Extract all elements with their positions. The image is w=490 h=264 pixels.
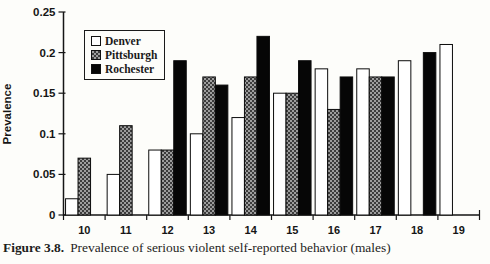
bar-denver-age-12	[149, 150, 162, 215]
bar-denver-age-14	[232, 118, 245, 215]
bar-pittsburgh-age-17	[369, 77, 382, 215]
legend-label-denver: Denver	[105, 35, 141, 47]
x-tick-label-19: 19	[453, 224, 465, 236]
bar-rochester-age-16	[340, 77, 353, 215]
bar-pittsburgh-age-10	[78, 158, 91, 215]
bar-pittsburgh-age-12	[161, 150, 174, 215]
x-tick-label-10: 10	[78, 224, 90, 236]
legend-item-denver: Denver	[91, 35, 157, 47]
bar-denver-age-18	[398, 61, 411, 215]
figure-caption-label: Figure 3.8.	[3, 240, 64, 255]
y-tick-label: 0.2	[40, 47, 56, 59]
x-tick-label-15: 15	[286, 224, 298, 236]
y-tick-label: 0.15	[33, 87, 56, 99]
x-tick-label-11: 11	[120, 224, 132, 236]
bar-denver-age-17	[357, 69, 370, 215]
y-tick-label: 0.05	[33, 168, 56, 180]
bar-pittsburgh-age-14	[244, 77, 257, 215]
x-tick-label-17: 17	[369, 224, 381, 236]
bar-denver-age-19	[440, 44, 453, 215]
bar-denver-age-10	[66, 199, 79, 215]
legend-label-pittsburgh: Pittsburgh	[105, 49, 157, 61]
bar-rochester-age-18	[423, 53, 436, 215]
x-tick-label-12: 12	[161, 224, 173, 236]
bar-rochester-age-17	[382, 77, 395, 215]
x-tick-label-13: 13	[203, 224, 215, 236]
x-tick-label-18: 18	[411, 224, 423, 236]
bar-pittsburgh-age-16	[328, 109, 341, 215]
figure-caption-text: Prevalence of serious violent self-repor…	[70, 240, 391, 255]
legend-swatch-pittsburgh	[91, 50, 101, 60]
legend-item-pittsburgh: Pittsburgh	[91, 49, 157, 61]
bar-rochester-age-13	[215, 85, 228, 215]
bar-chart: 00.050.10.150.20.2510111213141516171819P…	[0, 0, 490, 240]
legend-swatch-rochester	[91, 64, 101, 74]
y-axis-title: Prevalence	[1, 84, 13, 145]
x-tick-label-14: 14	[245, 224, 258, 236]
y-tick-label: 0	[49, 209, 55, 221]
chart-legend: Denver Pittsburgh Rochester	[84, 30, 165, 80]
legend-item-rochester: Rochester	[91, 63, 157, 75]
figure-caption: Figure 3.8.Prevalence of serious violent…	[3, 240, 487, 256]
bar-denver-age-15	[274, 93, 287, 215]
bar-pittsburgh-age-15	[286, 93, 299, 215]
bar-denver-age-11	[107, 174, 120, 215]
y-tick-label: 0.25	[33, 6, 56, 18]
y-tick-label: 0.1	[40, 128, 57, 140]
bar-denver-age-16	[315, 69, 328, 215]
bar-rochester-age-15	[299, 61, 312, 215]
legend-label-rochester: Rochester	[105, 63, 154, 75]
legend-swatch-denver	[91, 36, 101, 46]
bar-pittsburgh-age-13	[203, 77, 216, 215]
bar-denver-age-13	[190, 134, 203, 215]
scanned-page: 00.050.10.150.20.2510111213141516171819P…	[0, 0, 490, 264]
bar-rochester-age-14	[257, 36, 270, 215]
bar-rochester-age-12	[174, 61, 187, 215]
x-tick-label-16: 16	[328, 224, 340, 236]
bar-pittsburgh-age-11	[120, 126, 132, 215]
